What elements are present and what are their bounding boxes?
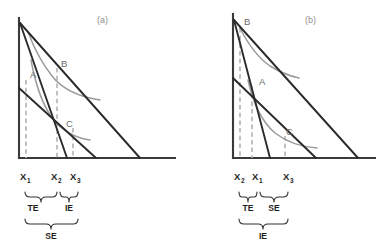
panel-a-brace-te [25,192,57,202]
panel-a-effect-label-te: TE [28,203,39,213]
panel-b: B A C (b) X 2 X 1 X 3 TE SE [233,14,375,241]
panel-b-effect-label-se: SE [268,203,280,213]
panel-b-tick-x2-base: X [234,171,241,182]
panel-a-tick-x3-base: X [70,171,77,182]
panel-a-brace-se [25,219,78,229]
panel-b-budget-line-new [233,78,316,158]
panel-a-caption: (a) [97,15,108,25]
panel-b-brace-ie [239,219,288,229]
figure-canvas: A B C (a) X 1 X 2 X 3 TE IE [0,0,383,242]
panel-b-tick-x3: X 3 [283,171,294,184]
panel-a-point-label-B: B [61,58,67,69]
panel-a-tick-x1-base: X [20,171,27,182]
panel-a-point-label-A: A [30,69,37,80]
panel-a-effect-label-ie: IE [65,203,73,213]
panel-b-caption: (b) [305,15,316,25]
panel-a-tick-x2-sub: 2 [58,177,62,184]
panel-a: A B C (a) X 1 X 2 X 3 TE IE [19,15,175,241]
panel-a-tick-x2-base: X [51,171,58,182]
panel-b-tick-x2-sub: 2 [241,177,245,184]
panel-b-brace-se [260,192,288,202]
panel-b-brace-te [239,192,257,202]
panel-a-tick-x2: X 2 [51,171,62,184]
panel-b-point-label-A: A [259,76,266,87]
panel-a-point-label-C: C [66,118,73,129]
panel-b-tick-x1-base: X [252,171,259,182]
panel-b-tick-x1: X 1 [252,171,263,184]
panel-a-tick-x1: X 1 [20,171,31,184]
panel-a-tick-x1-sub: 1 [27,177,31,184]
panel-b-tick-x3-sub: 3 [290,177,294,184]
economics-diagram: A B C (a) X 1 X 2 X 3 TE IE [0,0,383,242]
panel-a-tick-x3: X 3 [70,171,81,184]
panel-b-effect-label-te: TE [243,203,254,213]
panel-a-tick-x3-sub: 3 [77,177,81,184]
panel-a-budget-line-original [20,23,67,158]
panel-b-point-label-C: C [286,126,293,137]
panel-b-point-label-B: B [244,16,250,27]
panel-a-effect-label-se: SE [45,231,57,241]
panel-a-brace-ie [60,192,78,202]
panel-b-tick-x1-sub: 1 [259,177,263,184]
panel-b-effect-label-ie: IE [259,231,267,241]
panel-b-tick-x2: X 2 [234,171,245,184]
panel-a-indifference-curve-low [31,60,90,140]
panel-b-tick-x3-base: X [283,171,290,182]
